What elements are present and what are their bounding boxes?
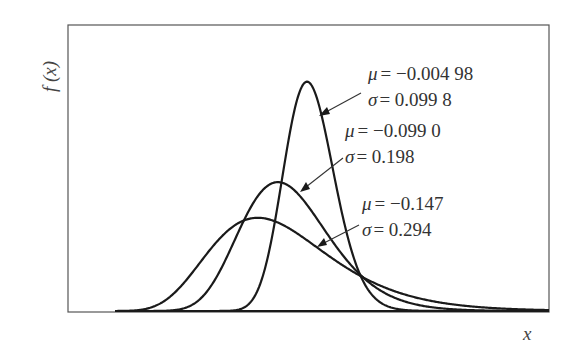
y-axis-label: f (x) — [39, 61, 61, 92]
mu-label-3: μ= −0.147 — [361, 193, 443, 214]
density-curve-2 — [115, 182, 549, 311]
mu-label-1: μ= −0.004 98 — [367, 63, 473, 84]
x-axis-label: x — [522, 323, 532, 344]
sigma-label-2: σ= 0.198 — [345, 146, 415, 167]
arrowhead-3-icon — [317, 238, 327, 247]
arrowhead-2-icon — [300, 182, 310, 192]
mu-label-2: μ= −0.099 0 — [344, 120, 441, 141]
density-curve-3 — [115, 218, 549, 311]
annotation-curve-1: μ= −0.004 98 σ= 0.099 8 — [319, 63, 473, 116]
arrow-2 — [306, 158, 343, 187]
plot-frame — [68, 25, 549, 312]
lognormal-density-chart: μ= −0.004 98 σ= 0.099 8 μ= −0.099 0 σ= 0… — [0, 0, 583, 354]
sigma-label-3: σ= 0.294 — [362, 219, 432, 240]
sigma-label-1: σ= 0.099 8 — [368, 89, 452, 110]
density-curves — [115, 82, 549, 311]
annotation-curve-3: μ= −0.147 σ= 0.294 — [317, 193, 443, 247]
arrow-3 — [324, 225, 359, 243]
arrow-1 — [326, 93, 361, 112]
annotation-curve-2: μ= −0.099 0 σ= 0.198 — [300, 120, 441, 192]
density-curve-1 — [115, 82, 549, 311]
